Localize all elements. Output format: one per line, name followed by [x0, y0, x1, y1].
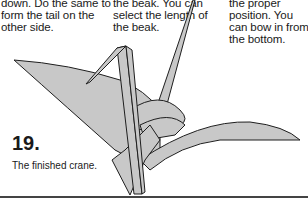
bottom-divider	[0, 196, 308, 198]
step-number: 19.	[12, 132, 40, 155]
step-description: The finished crane.	[12, 160, 97, 171]
